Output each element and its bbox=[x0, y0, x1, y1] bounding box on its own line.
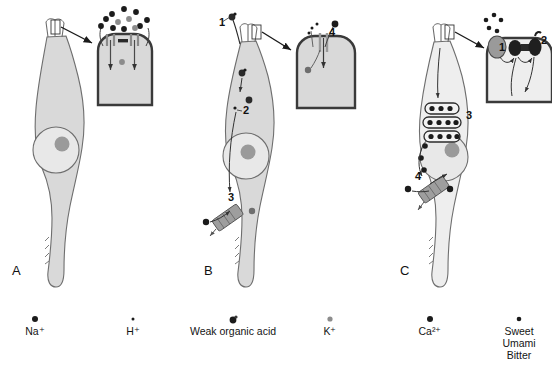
panel-label-b: B bbox=[204, 263, 213, 278]
step-label-b-2: 2 bbox=[243, 104, 249, 116]
step-label-c-1: 1 bbox=[499, 41, 505, 53]
legend-marker-na-icon bbox=[32, 316, 38, 322]
legend-marker-k-icon bbox=[327, 316, 332, 321]
legend-item-k: K⁺ bbox=[323, 316, 336, 337]
legend-marker-acid-proton-icon bbox=[234, 315, 237, 318]
tight-junction-a bbox=[118, 39, 128, 42]
ion-ca bbox=[437, 134, 442, 139]
ion-ca bbox=[429, 106, 434, 111]
ion-na bbox=[109, 11, 115, 17]
legend-marker-ca-icon bbox=[427, 316, 433, 322]
weak-acid-proton bbox=[233, 12, 236, 15]
ion-na bbox=[121, 26, 127, 32]
ion-h bbox=[316, 23, 319, 26]
ion-ca bbox=[447, 106, 452, 111]
nucleolus-a bbox=[55, 137, 70, 152]
flux-arrow-c bbox=[418, 202, 424, 210]
ion-h-intracellular bbox=[233, 106, 236, 109]
g-protein-subunit bbox=[509, 40, 522, 56]
ion-na bbox=[121, 6, 127, 12]
nucleus-a bbox=[33, 127, 79, 173]
panel-b: 1 2 3 bbox=[203, 12, 355, 287]
apical-inset-a bbox=[98, 6, 152, 105]
ion-ca bbox=[428, 134, 433, 139]
microvilli-c bbox=[433, 25, 450, 42]
ion-k-intracellular bbox=[119, 59, 125, 65]
nucleolus-c bbox=[445, 143, 460, 158]
legend-label-weak-acid: Weak organic acid bbox=[190, 325, 276, 337]
panel-c: 3 4 bbox=[400, 13, 552, 287]
panel-label-a: A bbox=[12, 263, 21, 278]
taste-cell-c bbox=[419, 24, 468, 287]
acid-anion-particle bbox=[246, 97, 253, 104]
tastant-molecule bbox=[487, 26, 492, 31]
panel-label-c: C bbox=[400, 263, 409, 278]
legend-item-weak-acid: Weak organic acid bbox=[190, 315, 276, 337]
legend-marker-tastant-icon bbox=[517, 317, 522, 322]
step-label-b-3: 3 bbox=[228, 191, 234, 203]
ion-na bbox=[133, 9, 139, 15]
tastant-molecule bbox=[484, 18, 489, 23]
ion-h bbox=[311, 27, 314, 30]
microvilli-b bbox=[240, 25, 257, 42]
ion-na bbox=[110, 25, 116, 31]
ion-k-outside-b bbox=[203, 219, 209, 225]
ion-ca bbox=[436, 120, 441, 125]
legend-marker-h-icon bbox=[132, 318, 135, 321]
step-label-c-2: 2 bbox=[541, 34, 547, 46]
ion-ca bbox=[453, 120, 458, 125]
microvilli-a bbox=[46, 20, 64, 37]
ion-na bbox=[137, 23, 143, 29]
legend-item-na: Na⁺ bbox=[25, 316, 44, 337]
legend-item-ca: Ca²⁺ bbox=[419, 316, 442, 337]
ion-k bbox=[115, 19, 121, 25]
taste-cell-b bbox=[223, 24, 274, 287]
apical-inset-c: 1 2 bbox=[484, 13, 552, 102]
taste-transduction-figure: A 1 2 bbox=[0, 0, 552, 368]
ion-ca bbox=[422, 143, 428, 149]
legend-item-sweet-umami-bitter: Sweet Umami Bitter bbox=[502, 317, 535, 361]
ion-ca bbox=[446, 134, 451, 139]
ion-na bbox=[98, 23, 104, 29]
tastant-molecule bbox=[499, 18, 504, 23]
ion-h bbox=[308, 32, 311, 35]
ion-ca bbox=[445, 120, 450, 125]
ion-na bbox=[103, 16, 109, 22]
acid-entry-path-b bbox=[233, 20, 240, 44]
tastant-molecule bbox=[492, 13, 497, 18]
apical-inset-b: 4 bbox=[297, 21, 355, 108]
legend-label-umami: Umami bbox=[502, 337, 535, 349]
legend-item-h: H⁺ bbox=[126, 318, 140, 338]
nucleolus-b bbox=[241, 145, 256, 160]
basal-process-b bbox=[235, 237, 239, 264]
basal-process-a bbox=[45, 237, 49, 264]
er-cisterna bbox=[424, 131, 460, 142]
tastant-molecule bbox=[495, 29, 500, 34]
ion-k bbox=[132, 25, 138, 31]
taste-cell-a bbox=[33, 19, 84, 287]
ion-k-inside-b bbox=[249, 208, 255, 214]
ion-k bbox=[126, 16, 132, 22]
er-cisterna bbox=[423, 117, 461, 128]
ion-ca-outside-c bbox=[405, 186, 411, 192]
weak-acid-proton bbox=[243, 68, 246, 71]
legend-label-ca: Ca²⁺ bbox=[419, 325, 442, 337]
panel-a: A bbox=[12, 6, 152, 287]
ion-channel-c bbox=[529, 38, 542, 56]
ion-ca bbox=[454, 134, 459, 139]
basal-process-c bbox=[429, 237, 433, 264]
legend-label-k: K⁺ bbox=[323, 325, 336, 337]
ion-ca bbox=[438, 106, 443, 111]
legend-label-bitter: Bitter bbox=[507, 349, 532, 361]
step-label-b-4: 4 bbox=[329, 26, 336, 38]
er-cisterna bbox=[425, 103, 459, 114]
callout-arrow-c bbox=[455, 32, 484, 48]
k-flux-arrow2-b bbox=[210, 229, 216, 236]
step-label-c-3: 3 bbox=[466, 109, 472, 121]
ion-intracellular-b bbox=[305, 67, 311, 73]
legend-label-sweet: Sweet bbox=[504, 325, 533, 337]
legend-label-na: Na⁺ bbox=[25, 325, 44, 337]
acid-entry-b: 1 bbox=[219, 12, 240, 44]
ion-ca-release-c bbox=[447, 186, 453, 192]
ion-ca bbox=[427, 120, 432, 125]
